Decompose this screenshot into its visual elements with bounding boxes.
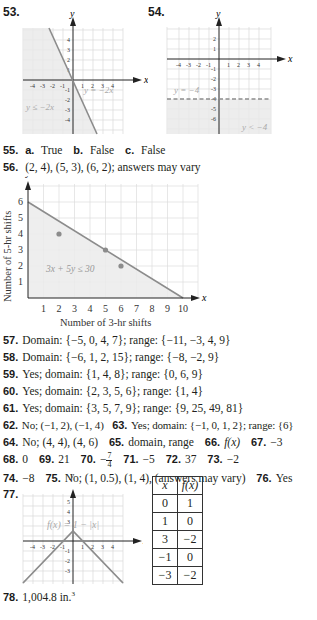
svg-text:4: 4 bbox=[88, 303, 93, 314]
svg-text:2: 2 bbox=[237, 62, 240, 68]
x-axis-title: Number of 3-hr shifts bbox=[60, 317, 151, 328]
point-6-2 bbox=[118, 263, 123, 268]
svg-text:3: 3 bbox=[67, 47, 70, 53]
svg-text:1: 1 bbox=[213, 46, 216, 52]
fraction: 74 bbox=[106, 452, 112, 469]
svg-text:2: 2 bbox=[213, 36, 216, 42]
x-axis-label: x bbox=[142, 535, 143, 546]
x-axis-arrow-icon bbox=[277, 56, 286, 62]
svg-text:5: 5 bbox=[103, 303, 108, 314]
table-row: 01 bbox=[153, 495, 203, 513]
svg-text:-5: -5 bbox=[211, 106, 216, 112]
svg-text:3: 3 bbox=[18, 244, 23, 255]
svg-text:4: 4 bbox=[111, 544, 114, 550]
svg-text:4: 4 bbox=[18, 228, 23, 239]
y-axis-label: y bbox=[215, 12, 221, 19]
problem-58: 58.Domain: {−6, 1, 2, 15}; range: {−8, −… bbox=[3, 350, 219, 364]
problem-56: 56. (2, 4), (5, 3), (6, 2); answers may … bbox=[3, 160, 201, 174]
region-label: 3x + 5y ≤ 30 bbox=[45, 264, 95, 274]
table-row: 3−2 bbox=[153, 531, 203, 549]
svg-text:4: 4 bbox=[257, 62, 260, 68]
svg-text:-1: -1 bbox=[65, 548, 70, 554]
table-row: 10 bbox=[153, 513, 203, 531]
svg-text:7: 7 bbox=[134, 303, 139, 314]
svg-text:-2: -2 bbox=[65, 558, 70, 564]
svg-text:-2: -2 bbox=[211, 76, 216, 82]
svg-text:5: 5 bbox=[67, 499, 70, 505]
x-axis-arrow-icon bbox=[133, 77, 142, 83]
svg-text:3: 3 bbox=[247, 62, 250, 68]
svg-text:-3: -3 bbox=[65, 107, 70, 113]
svg-text:-3: -3 bbox=[40, 544, 45, 550]
line-label: y = −2x bbox=[83, 85, 113, 95]
svg-text:2: 2 bbox=[67, 57, 70, 63]
y-axis-title: Number of 5-hr shifts bbox=[2, 211, 13, 302]
svg-text:-3: -3 bbox=[65, 568, 70, 574]
y-axis-label: y bbox=[25, 176, 31, 178]
svg-text:-4: -4 bbox=[65, 117, 70, 123]
svg-text:-6: -6 bbox=[211, 116, 216, 122]
function-label: f(x) = 1 − |x| bbox=[47, 519, 99, 531]
problem-59: 59.Yes; domain: {1, 4, 8}; range: {0, 6,… bbox=[3, 367, 203, 381]
svg-text:-1: -1 bbox=[65, 87, 70, 93]
svg-text:9: 9 bbox=[165, 303, 170, 314]
svg-text:1: 1 bbox=[81, 544, 84, 550]
svg-text:1: 1 bbox=[227, 62, 230, 68]
inequality-label: y ≤ −2x bbox=[25, 102, 54, 112]
svg-text:-3: -3 bbox=[186, 62, 191, 68]
svg-text:4: 4 bbox=[67, 509, 70, 515]
problem-74-76: 74.−8 75.No; (1, 0.5), (1, 4), (answers … bbox=[3, 471, 292, 485]
shaded-region bbox=[23, 28, 97, 134]
svg-text:5: 5 bbox=[18, 212, 23, 223]
svg-text:1: 1 bbox=[41, 303, 46, 314]
svg-text:3: 3 bbox=[101, 544, 104, 550]
svg-text:4: 4 bbox=[67, 37, 70, 43]
problem-55: 55. a. True b. False c. False bbox=[3, 143, 165, 157]
problem-61: 61.Yes; domain: {3, 5, 7, 9}; range: {9,… bbox=[3, 401, 243, 415]
x-axis-label: x bbox=[143, 74, 148, 85]
x-axis-arrow-icon bbox=[133, 538, 142, 544]
problem-78: 78.1,004.8 in.3 bbox=[3, 587, 75, 604]
problem-64-67: 64.No; (4, 4), (4, 6) 65.domain, range 6… bbox=[3, 435, 283, 449]
svg-text:-1: -1 bbox=[211, 66, 216, 72]
graph-53: x y -4-3-2-1 1234 4321 -1-2-3-4 y = −2x … bbox=[18, 12, 148, 142]
point-2-4 bbox=[56, 231, 61, 236]
x-axis-label: x bbox=[201, 292, 207, 303]
x-axis-arrow-icon bbox=[191, 295, 200, 301]
svg-text:2: 2 bbox=[18, 260, 23, 271]
y-axis-label-77: y bbox=[70, 470, 74, 480]
svg-text:-2: -2 bbox=[50, 83, 55, 89]
svg-text:-2: -2 bbox=[50, 544, 55, 550]
y-axis-arrow-icon bbox=[70, 489, 76, 498]
svg-text:-2: -2 bbox=[65, 97, 70, 103]
y-axis-label: y bbox=[69, 12, 75, 19]
svg-text:2: 2 bbox=[57, 303, 62, 314]
svg-text:1: 1 bbox=[18, 276, 23, 287]
graph-77: x -4-3-2-1 1234 543 -1-2-3 f(x) = 1 − |x… bbox=[18, 488, 143, 588]
svg-text:-2: -2 bbox=[196, 62, 201, 68]
table-row: −10 bbox=[153, 549, 203, 567]
inequality-label: y < −4 bbox=[241, 122, 268, 132]
svg-text:6: 6 bbox=[18, 196, 23, 207]
problem-68-73: 68.0 69.21 70.−74 71.−5 72.37 73.−2 bbox=[3, 452, 239, 469]
svg-text:8: 8 bbox=[150, 303, 155, 314]
table-row: −3−2 bbox=[153, 567, 203, 585]
svg-text:-3: -3 bbox=[211, 86, 216, 92]
line-label: y = −4 bbox=[173, 85, 200, 95]
table-header-row: x f(x) bbox=[153, 477, 203, 495]
problem-62-63: 62.No; (−1, 2), (−1, 4) 63.Yes; domain: … bbox=[3, 418, 293, 432]
problem-57: 57.Domain: {−5, 0, 4, 7}; range: {−11, −… bbox=[3, 333, 230, 347]
problem-77-number: 77. bbox=[3, 488, 18, 500]
graph-54: x y -4-3-2-1 1234 21 -1-2-3-4 -5-6 y = −… bbox=[162, 12, 297, 142]
function-table: x f(x) 01 10 3−2 −10 −3−2 bbox=[152, 476, 203, 585]
svg-text:-4: -4 bbox=[30, 83, 35, 89]
problem-60: 60.Yes; domain: {2, 3, 5, 6}; range: {1,… bbox=[3, 384, 203, 398]
x-axis-label: x bbox=[287, 53, 293, 64]
y-axis-arrow-icon bbox=[25, 181, 31, 190]
svg-text:-4: -4 bbox=[176, 62, 181, 68]
graph-56: x y 12345 678910 123456 3x + 5y ≤ 30 Num… bbox=[0, 176, 240, 336]
point-5-3 bbox=[103, 247, 108, 252]
svg-text:-4: -4 bbox=[30, 544, 35, 550]
svg-text:-3: -3 bbox=[40, 83, 45, 89]
svg-text:10: 10 bbox=[178, 303, 188, 314]
